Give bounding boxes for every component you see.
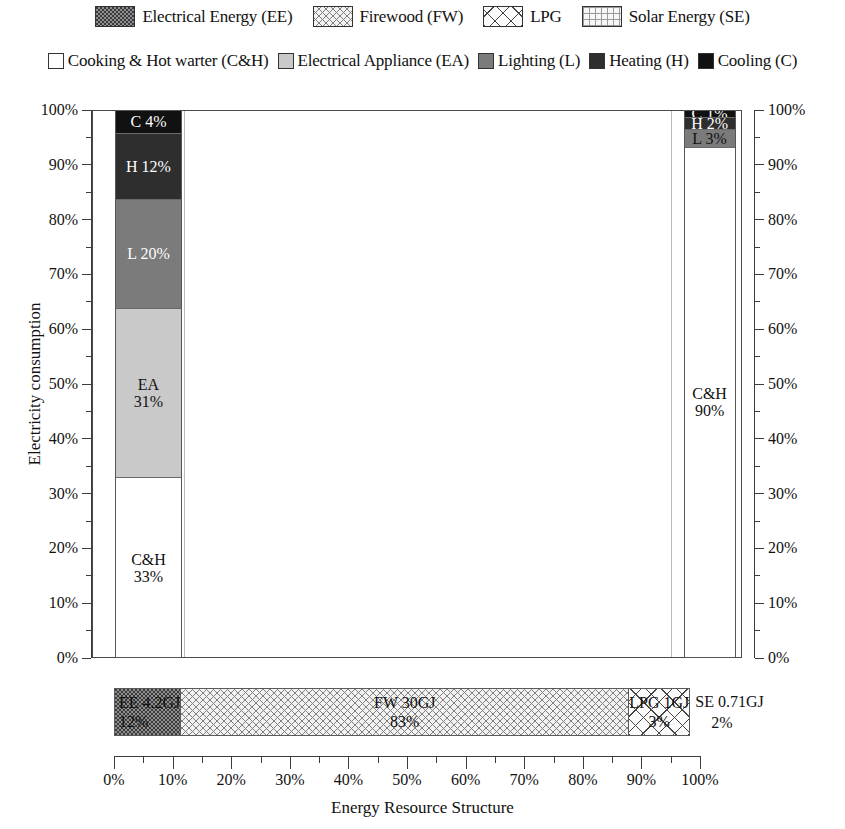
energy-resource-bar[interactable]: EE 4.2GJ12%FW 30GJ83%LPG 1GJ3%SE 0.71GJ2… — [114, 688, 700, 736]
x-tick-major — [583, 756, 584, 769]
resource-segment-fw[interactable]: FW 30GJ83% — [180, 688, 629, 736]
segment-percent: 31% — [134, 393, 163, 410]
y-tick-label: 90% — [768, 157, 797, 173]
bar-segment-c-h[interactable]: C&H90% — [685, 148, 735, 657]
legend-label-c: Cooling (C) — [718, 52, 798, 69]
resource-percent: 12% — [115, 712, 148, 731]
x-tick-label: 0% — [103, 772, 124, 788]
electricity-consumption-bar[interactable]: C 4%H 12%L 20%EA31%C&H33% — [115, 110, 182, 658]
x-tick-minor — [319, 756, 320, 763]
segment-label: H 12% — [126, 158, 171, 175]
bar-segment-h[interactable]: H 12% — [116, 134, 181, 200]
legend-item-fw: Firewood (FW) — [313, 6, 464, 27]
y-tick-label: 30% — [768, 486, 797, 502]
y-tick-label: 80% — [768, 212, 797, 228]
legend-swatch-lighting-icon — [478, 53, 494, 69]
resource-segment-se[interactable]: SE 0.71GJ2% — [689, 688, 700, 736]
segment-label: H 2% — [691, 118, 728, 130]
legend-label-lpg: LPG — [530, 8, 562, 25]
legend-swatch-cooling-icon — [698, 53, 714, 69]
legend-swatch-electrical-appliance-icon — [278, 53, 294, 69]
legend-resources: Electrical Energy (EE) Firewood (FW) LPG… — [0, 6, 845, 27]
legend-label-l: Lighting (L) — [498, 52, 580, 69]
y-tick-major — [82, 219, 91, 220]
y-tick-label: 40% — [49, 431, 78, 447]
resource-segment-lpg[interactable]: LPG 1GJ3% — [628, 688, 690, 736]
x-tick-minor — [261, 756, 262, 763]
legend-item-ea: Electrical Appliance (EA) — [278, 52, 470, 69]
y-tick-major — [755, 658, 764, 659]
y-tick-label: 100% — [768, 102, 805, 118]
legend-item-l: Lighting (L) — [478, 52, 580, 69]
y-tick-minor — [755, 630, 760, 631]
x-tick-major — [466, 756, 467, 769]
energy-consumption-bar[interactable]: C 1%H 2%L 3%C&H90% — [684, 110, 736, 658]
y-tick-major — [755, 603, 764, 604]
x-tick-major — [524, 756, 525, 769]
y-tick-major — [82, 438, 91, 439]
resource-label: LPG 1GJ — [629, 693, 689, 712]
x-tick-label: 50% — [392, 772, 421, 788]
segment-label: L 20% — [127, 245, 170, 262]
x-tick-label: 60% — [451, 772, 480, 788]
y-tick-minor — [755, 356, 760, 357]
resource-percent: 3% — [649, 712, 670, 731]
legend-label-ea: Electrical Appliance (EA) — [298, 52, 470, 69]
category-divider-fw — [671, 111, 672, 657]
bar-segment-h[interactable]: H 2% — [685, 118, 735, 130]
y-tick-label: 10% — [49, 595, 78, 611]
segment-label: L 3% — [692, 130, 727, 147]
x-tick-major — [114, 756, 115, 769]
x-tick-major — [641, 756, 642, 769]
y-tick-label: 90% — [49, 157, 78, 173]
segment-label: C 4% — [131, 113, 167, 130]
y-tick-minor — [755, 247, 760, 248]
y-tick-label: 70% — [768, 266, 797, 282]
bar-segment-ea[interactable]: EA31% — [116, 309, 181, 478]
category-divider-ee — [184, 111, 185, 657]
x-tick-minor — [495, 756, 496, 763]
bar-segment-l[interactable]: L 3% — [685, 130, 735, 148]
y-tick-major — [755, 384, 764, 385]
y-tick-label: 50% — [49, 376, 78, 392]
y-tick-minor — [86, 575, 91, 576]
y-tick-major — [82, 110, 91, 111]
x-tick-label: 40% — [334, 772, 363, 788]
y-tick-minor — [86, 466, 91, 467]
bar-segment-c[interactable]: C 1% — [685, 111, 735, 118]
y-tick-major — [82, 493, 91, 494]
y-tick-minor — [755, 521, 760, 522]
resource-segment-ee[interactable]: EE 4.2GJ12% — [114, 688, 181, 736]
x-tick-label: 20% — [217, 772, 246, 788]
x-tick-label: 30% — [275, 772, 304, 788]
bar-segment-l[interactable]: L 20% — [116, 200, 181, 309]
y-tick-label: 10% — [768, 595, 797, 611]
x-tick-minor — [378, 756, 379, 763]
y-tick-label: 30% — [49, 486, 78, 502]
y-tick-major — [755, 493, 764, 494]
legend-item-se: Solar Energy (SE) — [582, 6, 750, 27]
segment-label: C 1% — [692, 111, 728, 118]
legend-label-se: Solar Energy (SE) — [629, 8, 750, 25]
bar-segment-c-h[interactable]: C&H33% — [116, 478, 181, 657]
y-tick-major — [755, 110, 764, 111]
legend-label-ee: Electrical Energy (EE) — [142, 8, 292, 25]
y-tick-minor — [755, 301, 760, 302]
y-tick-major — [82, 164, 91, 165]
y-tick-label: 20% — [768, 540, 797, 556]
resource-percent: 2% — [711, 713, 732, 732]
bar-segment-c[interactable]: C 4% — [116, 111, 181, 134]
y-tick-minor — [755, 575, 760, 576]
y-tick-label: 80% — [49, 212, 78, 228]
x-tick-label: 100% — [681, 772, 718, 788]
legend-swatch-heating-icon — [589, 53, 605, 69]
legend-swatch-firewood-icon — [313, 6, 353, 27]
y-tick-minor — [86, 301, 91, 302]
legend-swatch-electrical-energy-icon — [95, 6, 135, 27]
legend-item-h: Heating (H) — [589, 52, 688, 69]
y-tick-major — [82, 548, 91, 549]
y-tick-major — [82, 274, 91, 275]
y-tick-minor — [755, 192, 760, 193]
y-tick-major — [755, 329, 764, 330]
y-tick-major — [82, 329, 91, 330]
